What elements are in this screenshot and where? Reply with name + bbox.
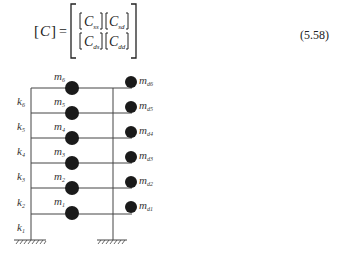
label-k6: k6 bbox=[17, 95, 25, 108]
lhs-close-bracket: ] bbox=[51, 23, 56, 39]
mass-md5 bbox=[125, 101, 137, 113]
mass-m6 bbox=[65, 81, 79, 95]
label-k1: k1 bbox=[17, 221, 25, 234]
label-m1: m1 bbox=[54, 195, 65, 208]
label-md6: md6 bbox=[139, 74, 153, 87]
label-m3: m3 bbox=[54, 145, 65, 158]
mass-m5 bbox=[65, 106, 79, 120]
mass-m1 bbox=[65, 206, 79, 220]
equation-number: (5.58) bbox=[300, 28, 329, 43]
cell-cds: Cds bbox=[84, 34, 100, 51]
mass-md3 bbox=[125, 151, 137, 163]
label-md3: md3 bbox=[139, 149, 153, 162]
label-m6: m6 bbox=[54, 70, 65, 83]
mass-md1 bbox=[125, 201, 137, 213]
equals-sign: = bbox=[59, 24, 67, 39]
mass-md2 bbox=[125, 176, 137, 188]
label-k4: k4 bbox=[17, 145, 25, 158]
structure-diagram: m6 m5 m4 m3 m2 m1 md6 md5 md4 md3 md2 md… bbox=[0, 60, 354, 258]
lhs-c: C bbox=[40, 23, 51, 39]
cell-css: Css bbox=[84, 14, 99, 31]
mass-md6 bbox=[125, 76, 137, 88]
label-m2: m2 bbox=[54, 170, 65, 183]
cell-cdd: Cdd bbox=[109, 34, 126, 51]
lhs-open-bracket: [ bbox=[34, 23, 39, 39]
label-md4: md4 bbox=[139, 124, 153, 137]
label-k5: k5 bbox=[17, 120, 25, 133]
ground-hatching bbox=[16, 240, 125, 244]
mass-m4 bbox=[65, 131, 79, 145]
label-k2: k2 bbox=[17, 196, 25, 209]
label-md5: md5 bbox=[139, 99, 153, 112]
mass-m3 bbox=[65, 156, 79, 170]
label-k3: k3 bbox=[17, 170, 25, 183]
mass-m2 bbox=[65, 181, 79, 195]
big-right-bracket bbox=[131, 4, 136, 58]
mass-md4 bbox=[125, 126, 137, 138]
label-m4: m4 bbox=[54, 120, 65, 133]
label-m5: m5 bbox=[54, 95, 65, 108]
cell-csd: Csd bbox=[109, 14, 125, 31]
label-md1: md1 bbox=[139, 199, 153, 212]
label-md2: md2 bbox=[139, 174, 153, 187]
big-left-bracket bbox=[71, 4, 76, 58]
